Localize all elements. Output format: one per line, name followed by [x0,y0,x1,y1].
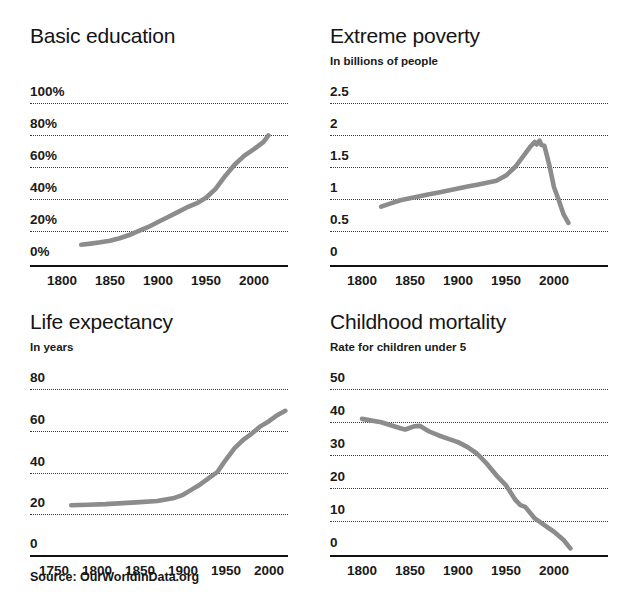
panel-subtitle-childhood-mortality: Rate for children under 5 [330,340,506,354]
panel-title-childhood-mortality: Childhood mortality [330,310,506,334]
xtick-label: 2000 [539,563,569,578]
xtick-label: 1950 [491,273,521,288]
xtick-label: 1800 [347,563,377,578]
panel-subtitle-life-expectancy: In years [30,340,173,354]
plot-area-childhood-mortality: 50 40 30 20 10 0 1800 1850 1900 1950 200… [330,371,608,551]
panel-extreme-poverty: Extreme poverty In billions of people 2.… [330,24,480,68]
panel-life-expectancy: Life expectancy In years 80 60 40 20 0 1… [30,310,173,354]
panel-basic-education: Basic education 100% 80% 60% 40% 20% 0% … [30,24,175,48]
xtick-label: 1950 [491,563,521,578]
plot-area-life-expectancy: 80 60 40 20 0 1750 1800 1850 1900 1950 2… [30,371,288,551]
plot-area-extreme-poverty: 2.5 2 1.5 1 0.5 0 1800 1850 1900 1950 20… [330,85,608,267]
four-panel-chart-figure: Basic education 100% 80% 60% 40% 20% 0% … [0,0,641,595]
series-line-childhood-mortality [330,371,608,557]
panel-title-life-expectancy: Life expectancy [30,310,173,334]
xtick-label: 1900 [443,563,473,578]
xtick-label: 1850 [395,273,425,288]
plot-area-basic-education: 100% 80% 60% 40% 20% 0% 1800 1850 1900 1… [30,85,288,267]
xtick-label: 1800 [347,273,377,288]
xtick-label: 1850 [395,563,425,578]
series-line-extreme-poverty [330,85,608,267]
xtick-label: 2000 [539,273,569,288]
panel-title-basic-education: Basic education [30,24,175,48]
xtick-label: 1900 [443,273,473,288]
xtick-label: 2000 [239,273,269,288]
panel-subtitle-extreme-poverty: In billions of people [330,54,480,68]
xtick-label: 1900 [143,273,173,288]
panel-title-extreme-poverty: Extreme poverty [330,24,480,48]
series-line-basic-education [30,85,288,267]
panel-childhood-mortality: Childhood mortality Rate for children un… [330,310,506,354]
xtick-label: 1850 [95,273,125,288]
source-note: Source: OurWorldinData.org [30,570,199,584]
series-line-life-expectancy [30,371,288,557]
xtick-label: 1800 [47,273,77,288]
xtick-label: 2000 [254,563,284,578]
xtick-label: 1950 [211,563,241,578]
xtick-label: 1950 [191,273,221,288]
